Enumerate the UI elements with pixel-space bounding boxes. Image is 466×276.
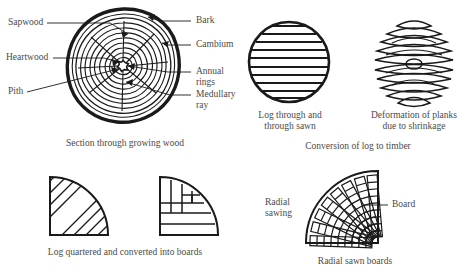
caption-log-quartered: Log quartered and converted into boards (30, 247, 220, 258)
label-cambium: Cambium (196, 39, 233, 50)
caption-radial-sawn-boards: Radial sawn boards (295, 256, 415, 267)
quarter-log-hatched (0, 159, 126, 276)
label-medullary-ray-line2: ray (196, 100, 208, 111)
quarter-boards-outline (160, 177, 218, 235)
caption-deformation-line2: due to shrinkage (356, 121, 466, 132)
deformed-planks (375, 21, 453, 107)
hatch-lines (0, 159, 126, 276)
label-annual-rings-line1: Annual (196, 66, 224, 77)
caption-conversion-of-log-to-timber: Conversion of log to timber (283, 141, 433, 152)
label-radial-sawing-line2: sawing (265, 208, 292, 219)
caption-log-through-sawn-line1: Log through and (244, 110, 336, 121)
caption-log-through-sawn-line2: through sawn (244, 121, 336, 132)
quarter-outline (50, 177, 108, 235)
label-board: Board (392, 199, 415, 210)
quarter-log-boards (160, 177, 218, 235)
label-annual-rings-line2: rings (196, 77, 215, 88)
saw-cuts (250, 26, 328, 98)
caption-section-through-growing-wood: Section through growing wood (35, 138, 215, 149)
label-heartwood: Heartwood (6, 52, 48, 63)
label-bark: Bark (196, 15, 214, 26)
label-medullary-ray-line1: Medullary (196, 89, 236, 100)
radial-sawn-boards (306, 171, 382, 248)
log-through-sawn (249, 22, 329, 102)
wood-section-figure: Sapwood Heartwood Pith Bark Cambium Annu… (0, 0, 466, 276)
label-sapwood: Sapwood (8, 17, 43, 28)
label-pith: Pith (8, 86, 23, 97)
tree-cross-section (67, 9, 179, 122)
caption-deformation-line1: Deformation of planks (356, 110, 466, 121)
label-radial-sawing-line1: Radial (265, 197, 290, 208)
